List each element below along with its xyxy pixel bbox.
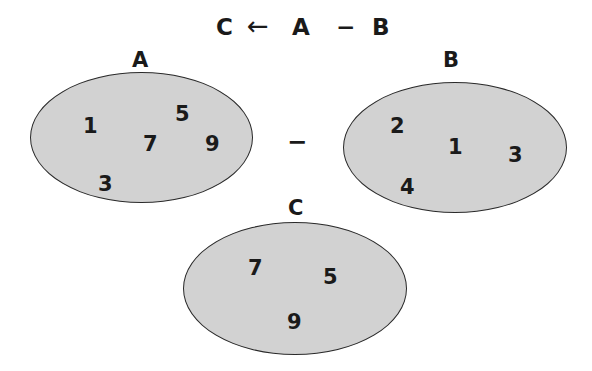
set-c-ellipse [183, 222, 407, 355]
set-c-element: 9 [287, 310, 302, 334]
difference-operator: − [287, 128, 307, 156]
set-c-label: C [288, 196, 303, 220]
set-b-element: 1 [448, 135, 463, 159]
set-a-element: 3 [98, 172, 113, 196]
set-b-element: 4 [400, 175, 415, 199]
set-c-element: 7 [248, 256, 263, 280]
set-a-label: A [132, 48, 148, 72]
set-a-element: 9 [205, 132, 220, 156]
set-a-element: 5 [175, 102, 190, 126]
equation-result: C [216, 14, 233, 40]
equation-operator: − [336, 14, 355, 40]
equation-right-operand: B [372, 14, 390, 40]
set-a-element: 7 [143, 132, 158, 156]
set-c-element: 5 [323, 265, 338, 289]
set-a-element: 1 [83, 114, 98, 138]
set-b-element: 3 [508, 143, 523, 167]
set-b-label: B [443, 48, 459, 72]
assign-arrow-icon: ← [247, 11, 269, 41]
equation-left-operand: A [292, 14, 310, 40]
set-b-element: 2 [390, 114, 405, 138]
